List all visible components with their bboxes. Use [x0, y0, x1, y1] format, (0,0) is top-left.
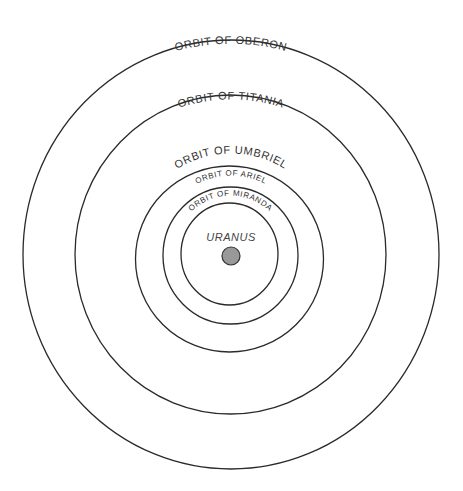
planet-uranus: [222, 247, 240, 265]
orbit-label-oberon: ORBIT OF OBERON: [173, 34, 288, 53]
orbit-label-ariel: ORBIT OF ARIEL: [194, 169, 269, 186]
orbit-label-miranda: ORBIT OF MIRANDA: [187, 189, 275, 213]
uranus-orbits-diagram: ORBIT OF OBERON ORBIT OF TITANIA ORBIT O…: [0, 0, 463, 491]
orbit-label-titania: ORBIT OF TITANIA: [176, 89, 286, 109]
planet-label-uranus: URANUS: [206, 231, 256, 243]
